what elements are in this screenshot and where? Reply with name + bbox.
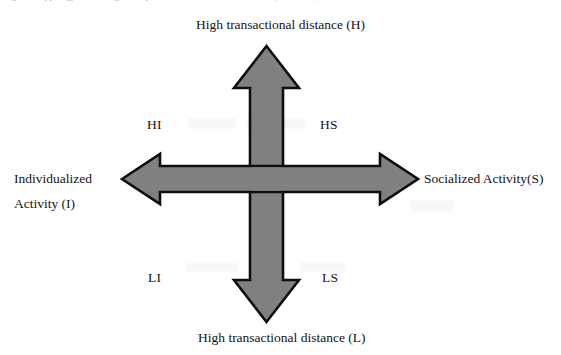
quadrant-label-ls: LS — [322, 269, 338, 286]
axis-label-bottom: High transactional distance (L) — [198, 329, 366, 346]
axis-label-left-line2: Activity (I) — [14, 191, 92, 216]
axis-label-top: High transactional distance (H) — [196, 16, 365, 33]
axis-label-left-line1: Individualized — [14, 166, 92, 191]
quadrant-label-li: LI — [148, 269, 161, 286]
quadrant-label-hi: HI — [147, 116, 162, 133]
quadrant-label-hs: HS — [320, 116, 338, 133]
axis-label-left: Individualized Activity (I) — [14, 166, 92, 216]
axis-label-right: Socialized Activity(S) — [424, 170, 544, 187]
quadrant-diagram: Figure: A typology of learning activity … — [0, 0, 561, 355]
arrow-intersection-fill — [251, 167, 281, 190]
